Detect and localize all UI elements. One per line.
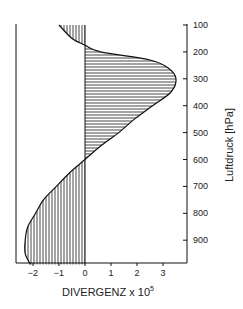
y-tick-label: 100: [193, 20, 208, 30]
divergence-chart: −2−10123100200300400500600700800900 DIVE…: [0, 0, 243, 309]
y-tick-label: 800: [193, 208, 208, 218]
y-tick-label: 200: [193, 47, 208, 57]
y-tick-label: 400: [193, 101, 208, 111]
x-tick-label: 2: [134, 268, 139, 278]
x-tick-label: −2: [28, 268, 38, 278]
y-tick-label: 700: [193, 181, 208, 191]
y-tick-label: 900: [193, 235, 208, 245]
x-tick-label: −1: [54, 268, 64, 278]
x-tick-label: 0: [82, 268, 87, 278]
divergence-area: [85, 45, 176, 159]
y-tick-label: 600: [193, 155, 208, 165]
convergence-area: [25, 160, 85, 265]
x-tick-label: 1: [108, 268, 113, 278]
plot-area: [25, 25, 176, 264]
y-tick-label: 300: [193, 74, 208, 84]
y-tick-label: 500: [193, 128, 208, 138]
y-axis-label: Luftdruck [hPa]: [223, 108, 235, 182]
x-tick-label: 3: [160, 268, 165, 278]
x-axis-label: DIVERGENZ x 105: [62, 285, 154, 298]
convergence-area: [59, 25, 85, 45]
